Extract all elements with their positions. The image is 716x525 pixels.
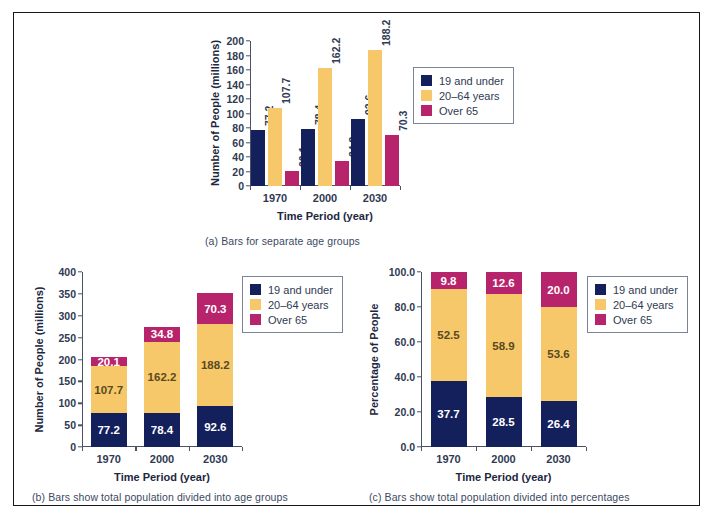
segment-value-label: 28.5 <box>492 416 514 428</box>
x-axis-tick-label: 2000 <box>491 453 515 465</box>
legend-label: 20–64 years <box>439 90 500 102</box>
legend-label: 20–64 years <box>268 299 329 311</box>
x-axis-tick-mark <box>421 447 422 451</box>
legend-item-0[interactable]: 19 and under <box>595 282 678 297</box>
y-axis-tick-label: 150 <box>24 375 76 387</box>
y-axis-tick-label: 200 <box>24 354 76 366</box>
legend-swatch-icon <box>595 299 606 310</box>
segment-value-label: 9.8 <box>441 275 457 287</box>
bar <box>268 108 282 186</box>
y-axis-tick-label: 100 <box>200 108 244 120</box>
bar <box>318 68 332 186</box>
segment-value-label: 78.4 <box>151 424 173 436</box>
bar-value-label: 70.3 <box>397 111 409 131</box>
y-axis-tick-label: 0 <box>200 180 244 192</box>
legend-label: 19 and under <box>439 75 504 87</box>
x-axis-tick-label: 2030 <box>203 453 227 465</box>
caption-a: (a) Bars for separate age groups <box>205 235 360 247</box>
x-axis-tick-mark <box>350 186 351 190</box>
chart-panel-c: 0.020.040.060.080.0100.0Percentage of Pe… <box>359 258 699 486</box>
x-axis-tick-mark <box>476 447 477 451</box>
legend-item-2[interactable]: Over 65 <box>421 103 504 118</box>
x-axis-tick-mark <box>189 447 190 451</box>
y-axis-tick-label: 250 <box>24 332 76 344</box>
y-axis-tick-mark <box>246 142 250 143</box>
y-axis-tick-label: 120 <box>200 93 244 105</box>
y-axis-tick-mark <box>78 403 82 404</box>
x-axis-tick-label: 1970 <box>436 453 460 465</box>
y-axis-tick-label: 350 <box>24 288 76 300</box>
segment-value-label: 34.8 <box>151 328 173 340</box>
y-axis-tick-mark <box>417 271 421 272</box>
bar <box>335 161 349 186</box>
x-axis-title: Time Period (year) <box>456 471 552 483</box>
segment-value-label: 92.6 <box>204 421 226 433</box>
bar <box>301 129 315 186</box>
x-axis-tick-mark <box>250 186 251 190</box>
plot-a: 020406080100120140160180200Number of Peo… <box>200 27 530 235</box>
y-axis-tick-label: 200 <box>200 35 244 47</box>
y-axis-tick-mark <box>78 381 82 382</box>
x-axis-tick-label: 2000 <box>313 192 337 204</box>
y-axis-tick-mark <box>78 293 82 294</box>
figure-frame: 020406080100120140160180200Number of Peo… <box>13 12 700 506</box>
segment-value-label: 58.9 <box>492 340 514 352</box>
x-axis-tick-mark <box>135 447 136 451</box>
legend-swatch-icon <box>595 284 606 295</box>
legend-item-1[interactable]: 20–64 years <box>595 297 678 312</box>
segment-value-label: 20.0 <box>547 284 569 296</box>
legend-c: 19 and under20–64 yearsOver 65 <box>587 276 688 333</box>
y-axis-tick-label: 80 <box>200 122 244 134</box>
legend-swatch-icon <box>250 299 261 310</box>
y-axis-tick-mark <box>246 98 250 99</box>
y-axis-tick-mark <box>417 411 421 412</box>
y-axis-title: Number of People (millions) <box>33 272 45 447</box>
y-axis-tick-label: 60 <box>200 137 244 149</box>
y-axis-tick-mark <box>78 359 82 360</box>
legend-a: 19 and under20–64 yearsOver 65 <box>413 67 514 124</box>
x-axis-tick-mark <box>531 447 532 451</box>
legend-item-2[interactable]: Over 65 <box>595 312 678 327</box>
x-axis-tick-label: 2000 <box>150 453 174 465</box>
legend-swatch-icon <box>250 284 261 295</box>
segment-value-label: 37.7 <box>437 408 459 420</box>
y-axis-tick-mark <box>78 424 82 425</box>
bar-value-label: 188.2 <box>380 19 392 45</box>
segment-value-label: 188.2 <box>201 359 230 371</box>
segment-value-label: 20.1 <box>97 356 119 368</box>
x-axis-title: Time Period (year) <box>277 210 373 222</box>
segment-value-label: 26.4 <box>547 418 569 430</box>
legend-item-2[interactable]: Over 65 <box>250 312 333 327</box>
legend-item-0[interactable]: 19 and under <box>421 73 504 88</box>
caption-c: (c) Bars show total population divided i… <box>369 491 630 503</box>
segment-value-label: 70.3 <box>204 303 226 315</box>
y-axis-tick-mark <box>246 69 250 70</box>
y-axis-tick-label: 50 <box>24 419 76 431</box>
y-axis-tick-mark <box>246 113 250 114</box>
segment-value-label: 77.2 <box>97 424 119 436</box>
y-axis-tick-mark <box>246 55 250 56</box>
legend-item-1[interactable]: 20–64 years <box>421 88 504 103</box>
y-axis-tick-mark <box>417 306 421 307</box>
y-axis-tick-mark <box>417 341 421 342</box>
y-axis-tick-mark <box>78 315 82 316</box>
y-axis-title: Percentage of People <box>368 272 380 447</box>
y-axis-tick-mark <box>78 271 82 272</box>
y-axis-tick-label: 0 <box>24 441 76 453</box>
legend-b: 19 and under20–64 yearsOver 65 <box>242 276 343 333</box>
legend-label: Over 65 <box>268 314 307 326</box>
segment-value-label: 162.2 <box>148 371 177 383</box>
x-axis-tick-label: 1970 <box>263 192 287 204</box>
bar <box>351 119 365 186</box>
y-axis-tick-label: 140 <box>200 79 244 91</box>
y-axis-tick-label: 40 <box>200 151 244 163</box>
legend-item-1[interactable]: 20–64 years <box>250 297 333 312</box>
legend-label: 19 and under <box>268 284 333 296</box>
y-axis-tick-mark <box>78 337 82 338</box>
legend-swatch-icon <box>250 314 261 325</box>
segment-value-label: 12.6 <box>492 277 514 289</box>
x-axis-tick-mark <box>300 186 301 190</box>
legend-item-0[interactable]: 19 and under <box>250 282 333 297</box>
legend-swatch-icon <box>421 75 432 86</box>
x-axis-tick-mark <box>586 447 587 451</box>
